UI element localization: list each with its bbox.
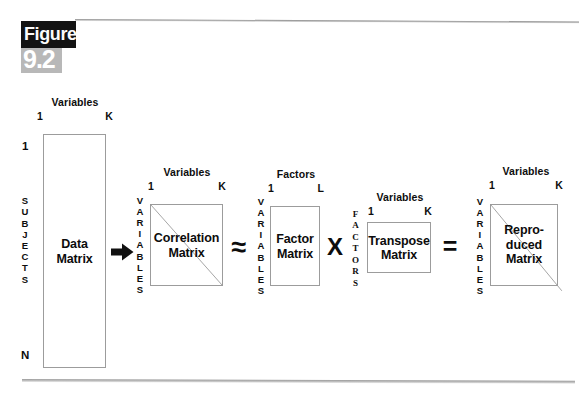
fact-var-letter-7: E xyxy=(258,274,265,285)
trans-fact-letter-0: F xyxy=(353,209,359,220)
correlation-matrix-header-start: 1 xyxy=(148,180,154,193)
corr-var-letter-5: B xyxy=(136,251,143,262)
bottom-divider-rule xyxy=(22,379,575,384)
subjects-letter-4: E xyxy=(22,240,29,251)
fact-var-letter-0: V xyxy=(258,196,265,207)
multiplication-operator: X xyxy=(324,235,346,259)
repro-var-letter-5: B xyxy=(476,252,483,263)
reproduced-matrix-header-start: 1 xyxy=(489,179,495,192)
figure-number-text: 9.2 xyxy=(23,46,55,72)
fact-var-letter-8: S xyxy=(258,285,265,296)
reproduced-matrix-box: Repro- duced Matrix xyxy=(490,204,558,286)
repro-var-letter-8: S xyxy=(477,285,484,296)
data-matrix-column-header: Variables 1 K xyxy=(35,96,115,123)
subjects-letter-3: J xyxy=(22,229,27,240)
reproduced-matrix-header-title: Variables xyxy=(487,165,565,178)
transpose-matrix-header-title: Variables xyxy=(366,191,434,204)
transpose-matrix-column-header: Variables 1 K xyxy=(366,191,434,218)
repro-var-letter-1: A xyxy=(476,207,483,218)
reproduced-matrix-header-end: K xyxy=(555,179,563,192)
fact-var-letter-1: A xyxy=(257,207,264,218)
correlation-matrix-header-end: K xyxy=(218,180,226,193)
correlation-matrix-box: Correlation Matrix xyxy=(150,204,223,286)
correlation-matrix-header-title: Variables xyxy=(146,166,228,179)
correlation-matrix-label: Correlation Matrix xyxy=(151,231,222,260)
corr-var-letter-6: L xyxy=(137,262,143,273)
repro-var-letter-3: I xyxy=(479,229,482,240)
corr-var-letter-4: A xyxy=(136,239,143,250)
reproduced-variables-vertical-label: V A R I A B L E S xyxy=(473,200,487,292)
fact-var-letter-5: B xyxy=(257,252,264,263)
transpose-matrix-header-start: 1 xyxy=(368,205,374,218)
factor-matrix-header-end: L xyxy=(317,182,324,195)
equals-operator: = xyxy=(439,234,461,259)
right-arrow-icon xyxy=(111,242,134,262)
figure-page: Figure 9.2 Variables 1 K 1 S U B J E C T… xyxy=(0,0,579,393)
repro-var-letter-2: R xyxy=(476,218,483,229)
fact-var-letter-3: I xyxy=(260,229,263,240)
subjects-letter-2: B xyxy=(21,218,28,229)
trans-fact-letter-4: O xyxy=(352,255,359,266)
fact-var-letter-4: A xyxy=(257,240,264,251)
subjects-letter-6: T xyxy=(22,262,28,273)
reproduced-matrix-column-header: Variables 1 K xyxy=(487,165,565,192)
transpose-matrix-label: Transpose Matrix xyxy=(368,233,430,262)
factor-matrix-box: Factor Matrix xyxy=(270,206,320,286)
trans-fact-letter-5: R xyxy=(352,266,359,277)
corr-var-letter-2: R xyxy=(136,217,143,228)
data-matrix-header-start: 1 xyxy=(37,110,43,123)
figure-word-text: Figure xyxy=(24,24,77,45)
factor-matrix-header-title: Factors xyxy=(266,168,326,181)
reproduced-matrix-label: Repro- duced Matrix xyxy=(491,223,557,267)
factor-variables-vertical-label: V A R I A B L E S xyxy=(254,200,268,292)
subjects-letter-1: U xyxy=(21,206,28,217)
corr-var-letter-3: I xyxy=(139,228,142,239)
figure-number-block: 9.2 xyxy=(21,48,62,73)
subjects-row-end: N xyxy=(21,349,29,361)
factor-matrix-header-start: 1 xyxy=(268,182,274,195)
factor-matrix-column-header: Factors 1 L xyxy=(266,168,326,195)
data-matrix-label: Data Matrix xyxy=(44,237,105,266)
data-matrix-box: Data Matrix xyxy=(43,134,106,368)
trans-fact-letter-2: C xyxy=(352,232,359,243)
factor-matrix-label: Factor Matrix xyxy=(271,232,319,261)
subjects-letter-0: S xyxy=(22,195,29,206)
transpose-matrix-box: Transpose Matrix xyxy=(367,222,431,273)
transpose-matrix-header-end: K xyxy=(424,205,432,218)
trans-fact-letter-1: A xyxy=(352,220,359,231)
approximately-equal-operator: ≈ xyxy=(226,234,252,261)
subjects-row-start: 1 xyxy=(22,140,28,152)
corr-var-letter-1: A xyxy=(136,206,143,217)
subjects-letter-5: C xyxy=(21,251,28,262)
repro-var-letter-7: E xyxy=(477,274,484,285)
repro-var-letter-0: V xyxy=(477,196,484,207)
correlation-matrix-column-header: Variables 1 K xyxy=(146,166,228,193)
figure-word-block: Figure xyxy=(21,21,76,48)
correlation-variables-vertical-label: V A R I A B L E S xyxy=(133,199,147,291)
data-matrix-header-end: K xyxy=(105,110,113,123)
fact-var-letter-2: R xyxy=(257,218,264,229)
corr-var-letter-7: E xyxy=(137,273,144,284)
repro-var-letter-4: A xyxy=(476,240,483,251)
subjects-vertical-label: S U B J E C T S xyxy=(18,185,32,295)
transpose-factors-vertical-label: F A C T O R S xyxy=(349,209,362,289)
trans-fact-letter-6: S xyxy=(353,278,358,289)
data-matrix-header-title: Variables xyxy=(35,96,115,109)
top-divider-rule xyxy=(75,19,579,23)
corr-var-letter-8: S xyxy=(137,284,144,295)
trans-fact-letter-3: T xyxy=(352,243,358,254)
subjects-letter-7: S xyxy=(22,274,29,285)
fact-var-letter-6: L xyxy=(258,263,264,274)
repro-var-letter-6: L xyxy=(477,263,483,274)
corr-var-letter-0: V xyxy=(137,195,144,206)
